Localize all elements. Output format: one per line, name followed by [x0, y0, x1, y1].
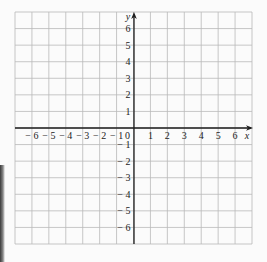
- x-tick-label: 4: [199, 130, 204, 141]
- y-tick-label: − 2: [117, 156, 130, 167]
- axes: [15, 12, 253, 244]
- y-tick-label: − 3: [117, 172, 130, 183]
- x-tick-label: − 3: [76, 130, 89, 141]
- x-axis-label: x: [244, 130, 250, 141]
- y-tick-label: − 6: [117, 222, 130, 233]
- x-tick-label: − 4: [59, 130, 72, 141]
- coordinate-grid: − 6− 5− 4− 3− 2− 10123456 654321− 1− 2− …: [0, 0, 267, 262]
- y-axis-label: y: [125, 11, 131, 22]
- y-tick-label: 6: [126, 23, 131, 34]
- x-tick-label: − 5: [42, 130, 55, 141]
- y-tick-label: 3: [126, 73, 131, 84]
- y-tick-label: 4: [126, 56, 131, 67]
- y-tick-label: − 1: [117, 139, 130, 150]
- x-tick-labels: − 6− 5− 4− 3− 2− 10123456: [25, 130, 237, 141]
- y-tick-label: 5: [126, 40, 131, 51]
- x-tick-label: 1: [148, 130, 153, 141]
- y-tick-label: − 4: [117, 189, 130, 200]
- x-tick-label: 3: [182, 130, 187, 141]
- x-tick-label: − 6: [25, 130, 38, 141]
- x-tick-label: − 2: [93, 130, 106, 141]
- x-tick-label: 6: [233, 130, 238, 141]
- y-tick-label: − 5: [117, 205, 130, 216]
- x-tick-label: 2: [165, 130, 170, 141]
- x-tick-label: 5: [216, 130, 221, 141]
- y-tick-label: 2: [126, 89, 131, 100]
- y-tick-label: 1: [126, 106, 131, 117]
